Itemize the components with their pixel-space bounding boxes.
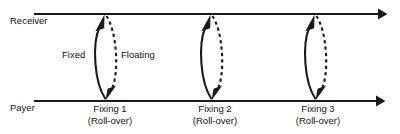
fixed-leg-arrowhead-2 <box>201 15 210 32</box>
floating-leg-arrowhead-3 <box>316 86 327 101</box>
receiver-axis-arrowhead <box>378 9 388 20</box>
fixed-leg-arrowhead-3 <box>305 15 314 32</box>
floating-leg-label: Floating <box>121 49 155 60</box>
floating-leg-arrow-1 <box>107 16 117 87</box>
receiver-axis-label: Receiver <box>10 15 48 26</box>
floating-leg-arrowhead-2 <box>212 86 223 101</box>
fixed-leg-arrow-1 <box>95 27 105 99</box>
swap-leg-group-3 <box>305 15 326 101</box>
receiver-axis <box>34 9 388 20</box>
fixing-3-label-line2: (Roll-over) <box>296 115 340 126</box>
fixed-leg-arrowhead-1 <box>95 15 104 32</box>
swap-timeline-diagram: Receiver Payer Fixed Floating Fixing 1 (… <box>0 0 400 134</box>
fixing-3-label-line1: Fixing 3 <box>301 103 334 114</box>
fixed-leg-label: Fixed <box>62 49 85 60</box>
fixing-1-label-line2: (Roll-over) <box>88 115 132 126</box>
fixed-leg-arrow-3 <box>305 27 315 99</box>
fixed-leg-arrow-2 <box>201 27 211 99</box>
floating-leg-arrowhead-1 <box>106 86 117 101</box>
fixing-2-label-line1: Fixing 2 <box>198 103 231 114</box>
swap-leg-group-1 <box>95 15 116 101</box>
floating-leg-arrow-2 <box>213 16 223 87</box>
payer-axis-arrowhead <box>376 96 386 107</box>
swap-leg-group-2 <box>201 15 222 101</box>
payer-axis-label: Payer <box>10 102 35 113</box>
diagram-canvas: Receiver Payer Fixed Floating Fixing 1 (… <box>0 0 400 134</box>
fixing-2-label-line2: (Roll-over) <box>193 115 237 126</box>
fixing-1-label-line1: Fixing 1 <box>93 103 126 114</box>
floating-leg-arrow-3 <box>317 16 327 87</box>
